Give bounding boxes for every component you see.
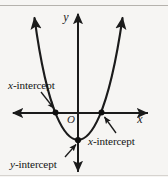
parabola-intercepts-figure: y x O x-intercept x-intercept y-intercep… [0, 0, 168, 177]
y-intercept-point [75, 137, 81, 143]
x-intercept-left-point [53, 110, 59, 116]
x-intercept-left-label-suffix: -intercept [13, 79, 56, 91]
origin-label: O [67, 113, 75, 125]
y-intercept-label: y-intercept [9, 158, 58, 170]
x-intercept-right-point [99, 110, 105, 116]
x-intercept-left-label: x-intercept [7, 79, 56, 91]
y-axis-label: y [62, 10, 69, 24]
figure-canvas: y x O x-intercept x-intercept y-intercep… [0, 0, 168, 177]
y-intercept-label-suffix: -intercept [15, 158, 58, 170]
x-axis-label: x [136, 112, 143, 126]
x-intercept-right-label-suffix: -intercept [93, 135, 136, 147]
x-intercept-right-label: x-intercept [87, 135, 136, 147]
